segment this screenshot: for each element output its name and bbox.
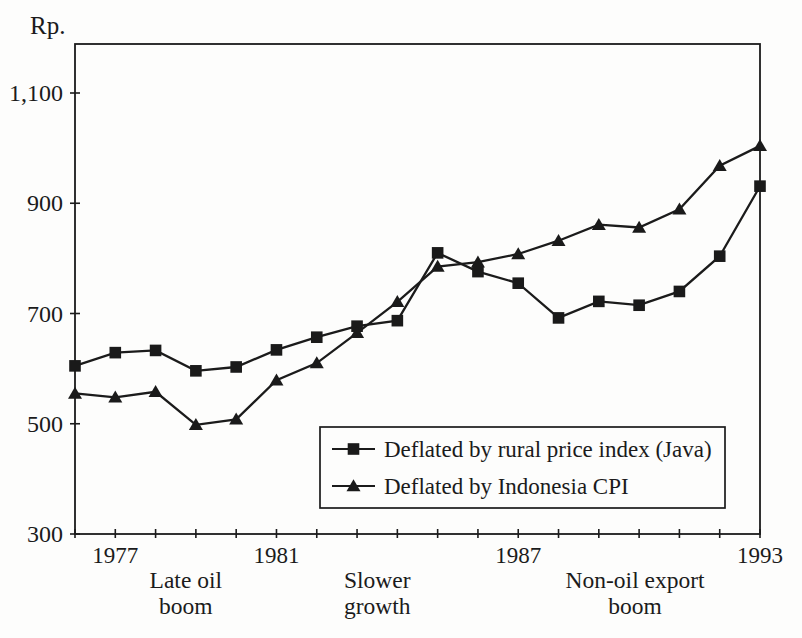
x-tick-label: 1987 <box>495 543 541 568</box>
y-tick-label: 700 <box>27 301 63 327</box>
series-1-point-1981-triangle-marker <box>269 373 283 385</box>
series-0-point-1985-square-marker <box>432 247 444 259</box>
series-1-point-1976-triangle-marker <box>68 387 82 399</box>
series-0-point-1976-square-marker <box>69 360 81 372</box>
series-line-0 <box>75 186 760 371</box>
series-0-point-1978-square-marker <box>150 345 162 357</box>
series-0-point-1977-square-marker <box>109 347 121 359</box>
legend-label: Deflated by Indonesia CPI <box>384 474 629 499</box>
series-0-point-1988-square-marker <box>553 312 565 324</box>
series-0-point-1992-square-marker <box>714 250 726 262</box>
series-0-point-1984-square-marker <box>392 315 404 327</box>
series-0-point-1989-square-marker <box>593 296 605 308</box>
series-line-1 <box>75 146 760 425</box>
series-0-point-1986-square-marker <box>472 266 484 278</box>
series-1-point-1992-triangle-marker <box>713 159 727 171</box>
line-chart: 3005007009001,1001977198119871993Late oi… <box>0 0 802 638</box>
legend-label: Deflated by rural price index (Java) <box>384 437 712 462</box>
series-0-point-1980-square-marker <box>230 361 242 373</box>
series-0-point-1979-square-marker <box>190 365 202 377</box>
legend-key-square-marker <box>348 443 360 455</box>
era-annotation-line2: boom <box>608 593 662 619</box>
series-1-point-1993-triangle-marker <box>753 139 767 151</box>
series-0-point-1981-square-marker <box>271 344 283 356</box>
series-1-point-1978-triangle-marker <box>149 385 163 397</box>
series-0-point-1993-square-marker <box>754 180 766 192</box>
series-0-point-1991-square-marker <box>674 286 686 298</box>
era-annotation-line1: Late oil <box>150 567 223 593</box>
figure: Rp. 3005007009001,1001977198119871993Lat… <box>0 0 802 638</box>
series-0-point-1987-square-marker <box>512 277 524 289</box>
series-0-point-1990-square-marker <box>633 299 645 311</box>
y-axis-title: Rp. <box>30 12 65 40</box>
x-tick-label: 1977 <box>92 543 138 568</box>
era-annotation-line2: boom <box>159 593 213 619</box>
y-tick-label: 300 <box>27 521 63 547</box>
y-tick-label: 500 <box>27 411 63 437</box>
x-tick-label: 1993 <box>737 543 783 568</box>
y-tick-label: 1,100 <box>9 80 63 106</box>
era-annotation-line1: Slower <box>344 567 411 593</box>
era-annotation-line2: growth <box>344 593 411 619</box>
y-tick-label: 900 <box>27 190 63 216</box>
x-tick-label: 1981 <box>253 543 299 568</box>
series-0-point-1982-square-marker <box>311 331 323 343</box>
era-annotation-line1: Non-oil export <box>566 567 705 593</box>
